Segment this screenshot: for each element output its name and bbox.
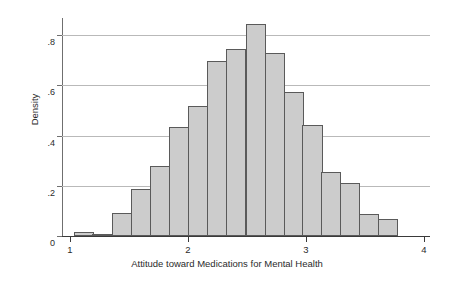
histogram-bar (378, 219, 398, 236)
y-tick-label-wrap-0.4: .4 (0, 132, 55, 150)
y-tick-label-0: 0 (50, 238, 55, 248)
y-tick-label-wrap-0: 0 (0, 232, 55, 250)
x-tick-label-3: 3 (296, 244, 316, 255)
histogram-bar (265, 53, 285, 236)
histogram-bar (112, 213, 132, 236)
x-axis-line (62, 236, 430, 237)
histogram-bar (131, 189, 151, 236)
x-tick-label-1: 1 (60, 244, 80, 255)
histogram-bar (284, 92, 304, 236)
x-tick-label-2: 2 (178, 244, 198, 255)
histogram-bar (188, 106, 208, 236)
histogram-bar (246, 24, 266, 236)
plot-area (62, 18, 430, 236)
histogram-figure: Density .8 .6 .4 .2 0 (0, 0, 454, 282)
x-tick-2 (188, 237, 189, 242)
x-tick-3 (306, 237, 307, 242)
x-axis-label: Attitude toward Medications for Mental H… (0, 258, 454, 269)
y-tick-label-0.6: .6 (47, 87, 55, 97)
histogram-bar (226, 49, 246, 236)
histogram-bar (321, 172, 341, 236)
histogram-bar (169, 127, 189, 236)
histogram-bar (150, 166, 170, 236)
y-tick-label-wrap-0.6: .6 (0, 81, 55, 99)
y-tick-label-0.2: .2 (47, 188, 55, 198)
y-tick-label-0.8: .8 (47, 37, 55, 47)
histogram-bar (302, 125, 322, 236)
y-tick-label-0.4: .4 (47, 138, 55, 148)
x-tick-1 (70, 237, 71, 242)
histogram-bar (340, 183, 360, 236)
x-tick-label-4: 4 (414, 244, 434, 255)
histogram-bar (359, 214, 379, 236)
y-tick-label-wrap-0.8: .8 (0, 31, 55, 49)
histogram-bar (207, 61, 227, 236)
y-tick-label-wrap-0.2: .2 (0, 182, 55, 200)
x-tick-4 (424, 237, 425, 242)
